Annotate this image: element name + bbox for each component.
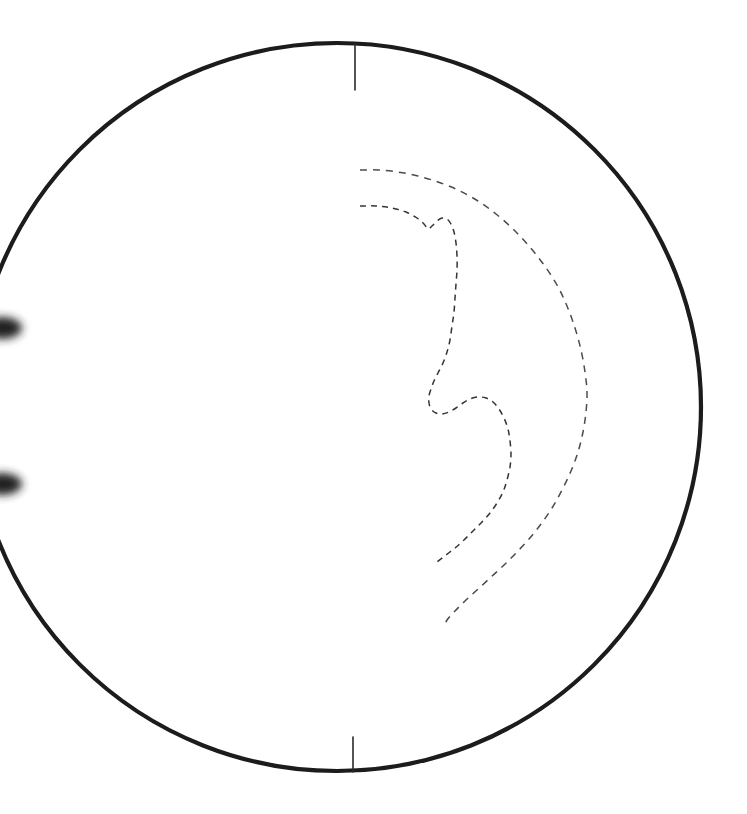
figure-root: Disk limb contour diagram <box>0 0 747 814</box>
disk-contour-figure <box>0 0 747 814</box>
